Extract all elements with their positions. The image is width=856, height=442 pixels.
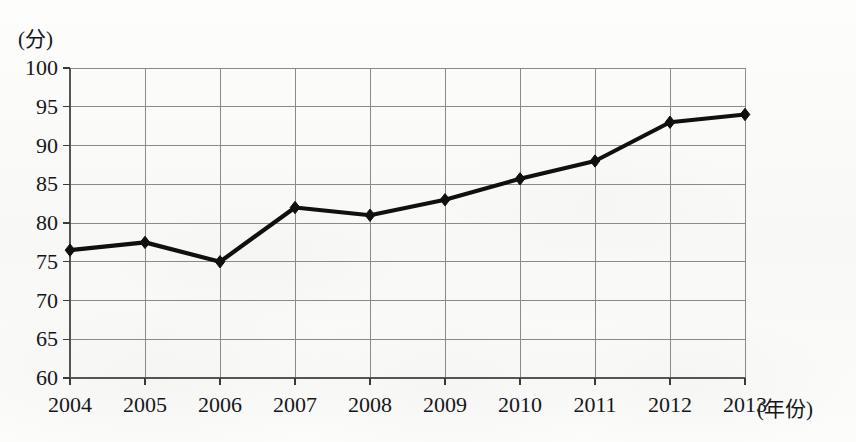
- x-tick-label: 2005: [123, 392, 167, 418]
- y-tick-label: 65: [2, 326, 58, 352]
- x-tick-label: 2008: [348, 392, 392, 418]
- y-tick-label: 80: [2, 210, 58, 236]
- x-tick-label: 2010: [498, 392, 542, 418]
- data-series: [70, 115, 745, 262]
- axis-ticks: [63, 68, 745, 385]
- y-tick-label: 75: [2, 249, 58, 275]
- y-tick-label: 60: [2, 365, 58, 391]
- x-tick-label: 2007: [273, 392, 317, 418]
- x-tick-label: 2013: [723, 392, 767, 418]
- y-tick-label: 100: [2, 55, 58, 81]
- x-tick-label: 2011: [573, 392, 616, 418]
- y-tick-label: 90: [2, 133, 58, 159]
- y-tick-label: 70: [2, 288, 58, 314]
- x-tick-label: 2004: [48, 392, 92, 418]
- line-chart-figure: (分) (年份) 6065707580859095100 20042005200…: [0, 0, 856, 442]
- y-tick-label: 95: [2, 94, 58, 120]
- x-tick-label: 2006: [198, 392, 242, 418]
- plot-area: [0, 0, 856, 442]
- grid-lines: [70, 68, 745, 378]
- y-tick-label: 85: [2, 171, 58, 197]
- x-tick-label: 2009: [423, 392, 467, 418]
- x-tick-label: 2012: [648, 392, 692, 418]
